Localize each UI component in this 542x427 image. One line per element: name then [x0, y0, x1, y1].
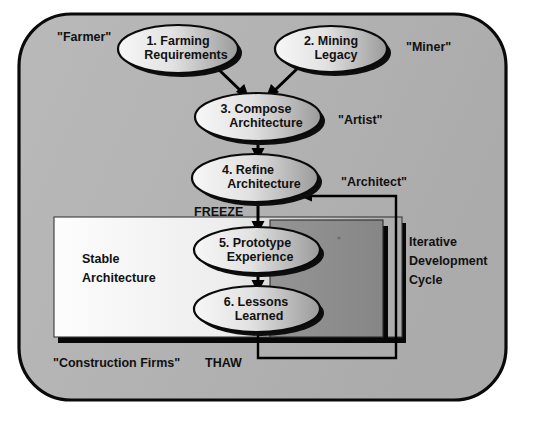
- node-5-label-line2: Experience: [227, 250, 294, 264]
- node-3-label-line2: Architecture: [229, 116, 303, 130]
- role-label-artist: "Artist": [338, 113, 383, 127]
- node-2-label-line2: Legacy: [314, 48, 357, 62]
- node-6-label-line2: Learned: [235, 309, 284, 323]
- process-diagram: 1. Farming Requirements 2. Mining Legacy…: [0, 0, 542, 427]
- inner-box-speck: [337, 236, 340, 239]
- node-4-label-line1: 4. Refine: [222, 163, 274, 177]
- node-1-label-line2: Requirements: [144, 48, 227, 62]
- diagram-canvas: 1. Farming Requirements 2. Mining Legacy…: [0, 0, 542, 427]
- node-5-label-line1: 5. Prototype: [219, 236, 291, 250]
- role-label-architect: "Architect": [341, 175, 407, 189]
- node-3-label-line1: 3. Compose: [221, 102, 292, 116]
- cycle-line1: Iterative: [409, 235, 457, 249]
- stable-architecture-line2: Architecture: [82, 271, 156, 285]
- node-1-label-line1: 1. Farming: [146, 34, 209, 48]
- role-label-construction-firms: "Construction Firms": [53, 356, 180, 370]
- stable-architecture-line1: Stable: [82, 252, 120, 266]
- cycle-line2: Development: [409, 254, 488, 268]
- node-2-label-line1: 2. Mining: [304, 34, 358, 48]
- edge-label-freeze: FREEZE: [194, 205, 243, 219]
- cycle-line3: Cycle: [409, 273, 442, 287]
- node-4-label-line2: Architecture: [227, 177, 301, 191]
- node-6-label-line1: 6. Lessons: [224, 295, 289, 309]
- edge-label-thaw: THAW: [205, 356, 242, 370]
- role-label-miner: "Miner": [406, 40, 451, 54]
- role-label-farmer: "Farmer": [57, 30, 111, 44]
